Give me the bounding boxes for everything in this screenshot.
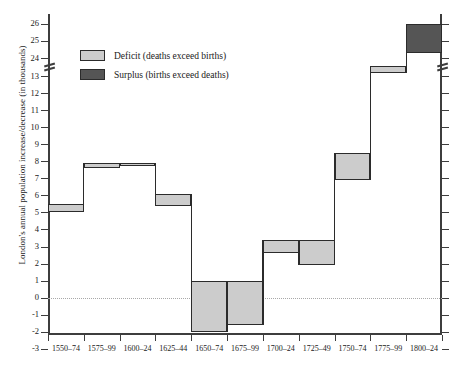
band-1700-24 bbox=[263, 240, 299, 254]
y-tick-right-24 bbox=[442, 58, 449, 59]
x-tick-label-1550-74: 1550–74 bbox=[48, 344, 84, 353]
population-change-chart: London's annual population increase/decr… bbox=[0, 0, 460, 373]
y-tick-label-25: 25 bbox=[0, 36, 49, 45]
step-riser-4 bbox=[226, 281, 227, 332]
y-tick-right-6 bbox=[442, 195, 449, 196]
y-tick-label-2: 2 bbox=[0, 259, 49, 268]
step-riser-3 bbox=[191, 194, 192, 332]
band-1575-99 bbox=[84, 163, 120, 168]
y-tick-right--1 bbox=[442, 315, 449, 316]
y-tick-right-7 bbox=[442, 178, 449, 179]
x-tick-label-1700-24: 1700–24 bbox=[263, 344, 299, 353]
y-tick-label--3: -3 bbox=[0, 344, 49, 353]
x-tick-7 bbox=[299, 335, 300, 341]
x-tick-6 bbox=[263, 335, 264, 341]
y-tick-right-26 bbox=[442, 24, 449, 25]
y-tick-right--2 bbox=[442, 332, 449, 333]
y-tick-label-3: 3 bbox=[0, 242, 49, 251]
legend-item-surplus: Surplus (births exceed deaths) bbox=[80, 69, 229, 80]
y-tick-right-13 bbox=[442, 76, 449, 77]
band-1550-74 bbox=[48, 204, 84, 213]
step-riser-7 bbox=[334, 153, 335, 266]
y-tick-label-24: 24 bbox=[0, 54, 49, 63]
band-1725-49 bbox=[299, 240, 335, 266]
y-tick-label--1: -1 bbox=[0, 310, 49, 319]
axis-break-mark-right bbox=[437, 63, 448, 72]
y-tick-right-3 bbox=[442, 247, 449, 248]
legend: Deficit (deaths exceed births) Surplus (… bbox=[80, 50, 229, 88]
x-tick-2 bbox=[120, 335, 121, 341]
step-riser-8 bbox=[370, 66, 371, 180]
y-tick-label-5: 5 bbox=[0, 208, 49, 217]
x-tick-label-1675-99: 1675–99 bbox=[227, 344, 263, 353]
y-tick-right-12 bbox=[442, 93, 449, 94]
step-riser-1 bbox=[119, 163, 120, 168]
y-tick-label-9: 9 bbox=[0, 140, 49, 149]
axis-break-mark-left bbox=[44, 63, 55, 72]
y-tick-label-7: 7 bbox=[0, 174, 49, 183]
band-1650-74 bbox=[191, 281, 227, 332]
x-tick-label-1625-44: 1625–44 bbox=[155, 344, 191, 353]
y-tick-right-11 bbox=[442, 110, 449, 111]
y-tick-right-4 bbox=[442, 229, 449, 230]
y-tick-right-8 bbox=[442, 161, 449, 162]
y-tick-right-5 bbox=[442, 212, 449, 213]
y-tick-right-1 bbox=[442, 281, 449, 282]
y-tick-right-10 bbox=[442, 127, 449, 128]
step-riser-5 bbox=[262, 240, 263, 325]
legend-item-deficit: Deficit (deaths exceed births) bbox=[80, 50, 229, 61]
x-tick-label-1800-24: 1800–24 bbox=[406, 344, 442, 353]
legend-swatch-surplus bbox=[80, 69, 105, 80]
x-tick-label-1650-74: 1650–74 bbox=[191, 344, 227, 353]
step-riser-6 bbox=[298, 240, 299, 266]
y-tick-label-8: 8 bbox=[0, 157, 49, 166]
y-tick-label-11: 11 bbox=[0, 106, 49, 115]
x-axis-line bbox=[48, 333, 442, 335]
legend-label-deficit: Deficit (deaths exceed births) bbox=[114, 51, 226, 61]
band-1800-24 bbox=[406, 24, 442, 53]
y-tick-label-13: 13 bbox=[0, 72, 49, 81]
y-tick-label-12: 12 bbox=[0, 89, 49, 98]
legend-swatch-deficit bbox=[80, 50, 105, 61]
x-tick-0 bbox=[48, 335, 49, 341]
x-tick-4 bbox=[191, 335, 192, 341]
x-tick-label-1750-74: 1750–74 bbox=[335, 344, 371, 353]
y-tick-right-9 bbox=[442, 144, 449, 145]
y-tick-label-0: 0 bbox=[0, 293, 49, 302]
step-riser-9 bbox=[406, 24, 407, 73]
band-1775-99 bbox=[370, 66, 406, 73]
y-tick-right-2 bbox=[442, 264, 449, 265]
x-tick-label-1775-99: 1775–99 bbox=[370, 344, 406, 353]
x-tick-5 bbox=[227, 335, 228, 341]
step-riser-2 bbox=[155, 163, 156, 206]
x-tick-label-1600-24: 1600–24 bbox=[120, 344, 156, 353]
legend-label-surplus: Surplus (births exceed deaths) bbox=[114, 70, 229, 80]
band-1625-44 bbox=[155, 194, 191, 206]
y-tick-right--3 bbox=[442, 349, 449, 350]
y-tick-label-1: 1 bbox=[0, 276, 49, 285]
x-tick-3 bbox=[155, 335, 156, 341]
y-tick-label-10: 10 bbox=[0, 123, 49, 132]
x-tick-1 bbox=[84, 335, 85, 341]
x-tick-10 bbox=[406, 335, 407, 341]
x-tick-label-1725-49: 1725–49 bbox=[299, 344, 335, 353]
band-1750-74 bbox=[335, 153, 371, 180]
x-tick-8 bbox=[335, 335, 336, 341]
y-tick-right-25 bbox=[442, 41, 449, 42]
x-tick-11 bbox=[442, 335, 443, 341]
y-tick-label-6: 6 bbox=[0, 191, 49, 200]
band-1675-99 bbox=[227, 281, 263, 325]
y-tick-label-26: 26 bbox=[0, 19, 49, 28]
x-tick-9 bbox=[370, 335, 371, 341]
x-tick-label-1575-99: 1575–99 bbox=[84, 344, 120, 353]
y-tick-label--2: -2 bbox=[0, 327, 49, 336]
y-tick-label-4: 4 bbox=[0, 225, 49, 234]
y-tick-right-0 bbox=[442, 298, 449, 299]
band-1600-24 bbox=[120, 163, 156, 166]
step-riser-0 bbox=[83, 163, 84, 212]
